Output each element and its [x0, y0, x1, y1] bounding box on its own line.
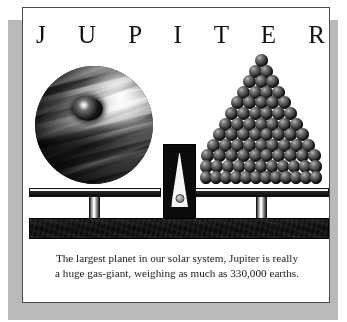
caption: The largest planet in our solar system, … [23, 251, 330, 281]
scale-fulcrum [163, 144, 196, 219]
scale-base-bar [29, 218, 329, 239]
page-title: J U P I T E R [23, 22, 329, 47]
scale-post-right [256, 197, 267, 219]
scale-pan-left [29, 188, 161, 197]
framed-card: J U P I T E R [22, 7, 330, 303]
caption-line-2: a huge gas-giant, weighing as much as 33… [23, 266, 330, 281]
scale-pan-right [195, 188, 329, 197]
scale-post-left [89, 197, 100, 219]
illustration-stage [23, 48, 330, 238]
jupiter-planet-sphere [35, 66, 153, 184]
jupiter-illustration-page: J U P I T E R [0, 0, 347, 322]
planet-terminator-shading [35, 66, 153, 184]
pyramid-row [201, 171, 321, 184]
pyramid-of-earth-spheres [201, 54, 321, 190]
caption-line-1: The largest planet in our solar system, … [23, 251, 330, 266]
fulcrum-pivot-dot [175, 194, 184, 203]
earth-sphere [310, 171, 321, 184]
